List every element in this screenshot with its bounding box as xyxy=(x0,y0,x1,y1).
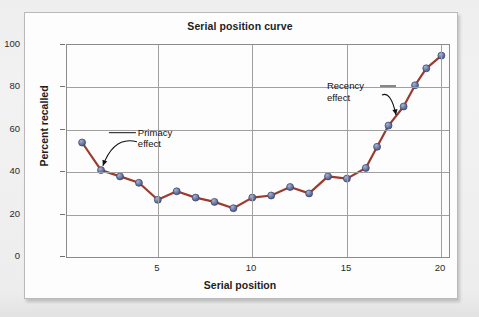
y-tick-mark xyxy=(60,129,65,130)
annotation-primacy: Primacy effect xyxy=(138,127,172,150)
y-tick-mark xyxy=(60,256,65,257)
chart-title: Serial position curve xyxy=(24,20,456,32)
serial-position-chart: Serial position curve Percent recalled S… xyxy=(24,12,456,297)
annotation-arrow-primacy xyxy=(103,141,137,166)
annotation-arrowhead-recency xyxy=(392,109,397,115)
y-tick-label: 80 xyxy=(0,80,20,91)
y-tick-label: 20 xyxy=(0,208,20,219)
y-tick-label: 100 xyxy=(0,38,20,49)
y-axis-label: Percent recalled xyxy=(38,66,50,186)
x-tick-label: 10 xyxy=(231,262,271,273)
y-tick-label: 40 xyxy=(0,165,20,176)
plot-area xyxy=(66,44,450,258)
y-tick-mark xyxy=(60,44,65,45)
annotation-recency: Recency effect xyxy=(327,80,364,103)
x-tick-label: 20 xyxy=(420,262,460,273)
x-axis-label: Serial position xyxy=(24,279,456,291)
y-tick-mark xyxy=(60,171,65,172)
x-tick-label: 5 xyxy=(137,262,177,273)
x-tick-label: 15 xyxy=(326,262,366,273)
annotation-arrow-layer xyxy=(67,45,449,257)
y-tick-label: 0 xyxy=(0,250,20,261)
y-tick-label: 60 xyxy=(0,123,20,134)
y-tick-mark xyxy=(60,214,65,215)
figure-page: Serial position curve Percent recalled S… xyxy=(0,0,479,317)
y-tick-mark xyxy=(60,86,65,87)
